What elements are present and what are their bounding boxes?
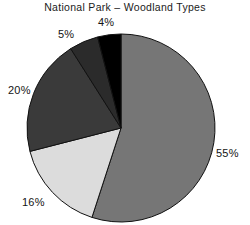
slice-label-3: 5% (58, 28, 74, 40)
slice-label-4: 4% (98, 16, 114, 28)
pie-chart-figure: National Park – Woodland Types 55% 16% 2… (0, 0, 250, 225)
slice-label-2: 20% (8, 84, 31, 96)
pie-slice-group (27, 34, 215, 222)
slice-label-1: 16% (22, 196, 45, 208)
slice-label-0: 55% (216, 147, 239, 159)
pie-chart-graphic (0, 0, 250, 225)
